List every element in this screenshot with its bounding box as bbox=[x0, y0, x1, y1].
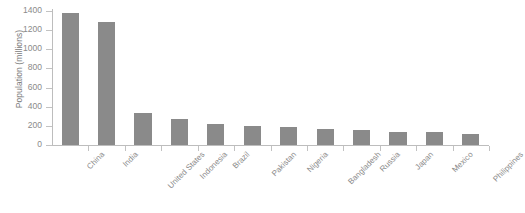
x-tick-label: United States bbox=[166, 150, 206, 190]
x-tick-label: India bbox=[121, 150, 140, 169]
y-tick-label: 1000 bbox=[23, 43, 46, 53]
x-tick-label: Japan bbox=[413, 150, 435, 172]
x-tick bbox=[453, 146, 454, 151]
bar bbox=[426, 132, 443, 145]
x-tick-label: Bangladesh bbox=[347, 150, 383, 186]
bar bbox=[98, 22, 115, 145]
bar bbox=[62, 13, 79, 145]
x-tick-label: Nigeria bbox=[305, 150, 329, 174]
bar bbox=[171, 119, 188, 145]
x-tick bbox=[307, 146, 308, 151]
x-tick bbox=[161, 146, 162, 151]
y-tick-label: 800 bbox=[28, 62, 46, 72]
y-tick-label: 1400 bbox=[23, 5, 46, 15]
x-tick bbox=[88, 146, 89, 151]
x-tick bbox=[343, 146, 344, 151]
x-tick bbox=[489, 146, 490, 151]
bar bbox=[134, 113, 151, 145]
y-tick-label: 400 bbox=[28, 101, 46, 111]
x-tick-label: Brazil bbox=[231, 150, 252, 171]
x-tick-label: Russia bbox=[378, 150, 402, 174]
bar bbox=[280, 127, 297, 145]
x-tick-label: Philippines bbox=[491, 150, 525, 184]
y-tick-label: 200 bbox=[28, 120, 46, 130]
x-tick-label: China bbox=[85, 150, 106, 171]
bar bbox=[317, 129, 334, 145]
y-tick-label: 600 bbox=[28, 82, 46, 92]
x-tick bbox=[416, 146, 417, 151]
bar bbox=[462, 134, 479, 145]
y-tick-label: 1200 bbox=[23, 24, 46, 34]
x-tick bbox=[271, 146, 272, 151]
x-tick bbox=[125, 146, 126, 151]
bar bbox=[353, 130, 370, 145]
x-tick-label: Mexico bbox=[451, 150, 475, 174]
y-tick: 0 bbox=[46, 145, 52, 146]
bar bbox=[207, 124, 224, 145]
x-tick bbox=[234, 146, 235, 151]
plot-area bbox=[52, 11, 489, 145]
x-tick bbox=[380, 146, 381, 151]
bar bbox=[244, 126, 261, 145]
y-tick-label: 0 bbox=[37, 139, 46, 149]
bar bbox=[389, 132, 406, 145]
x-tick-label: Pakistan bbox=[270, 150, 298, 178]
